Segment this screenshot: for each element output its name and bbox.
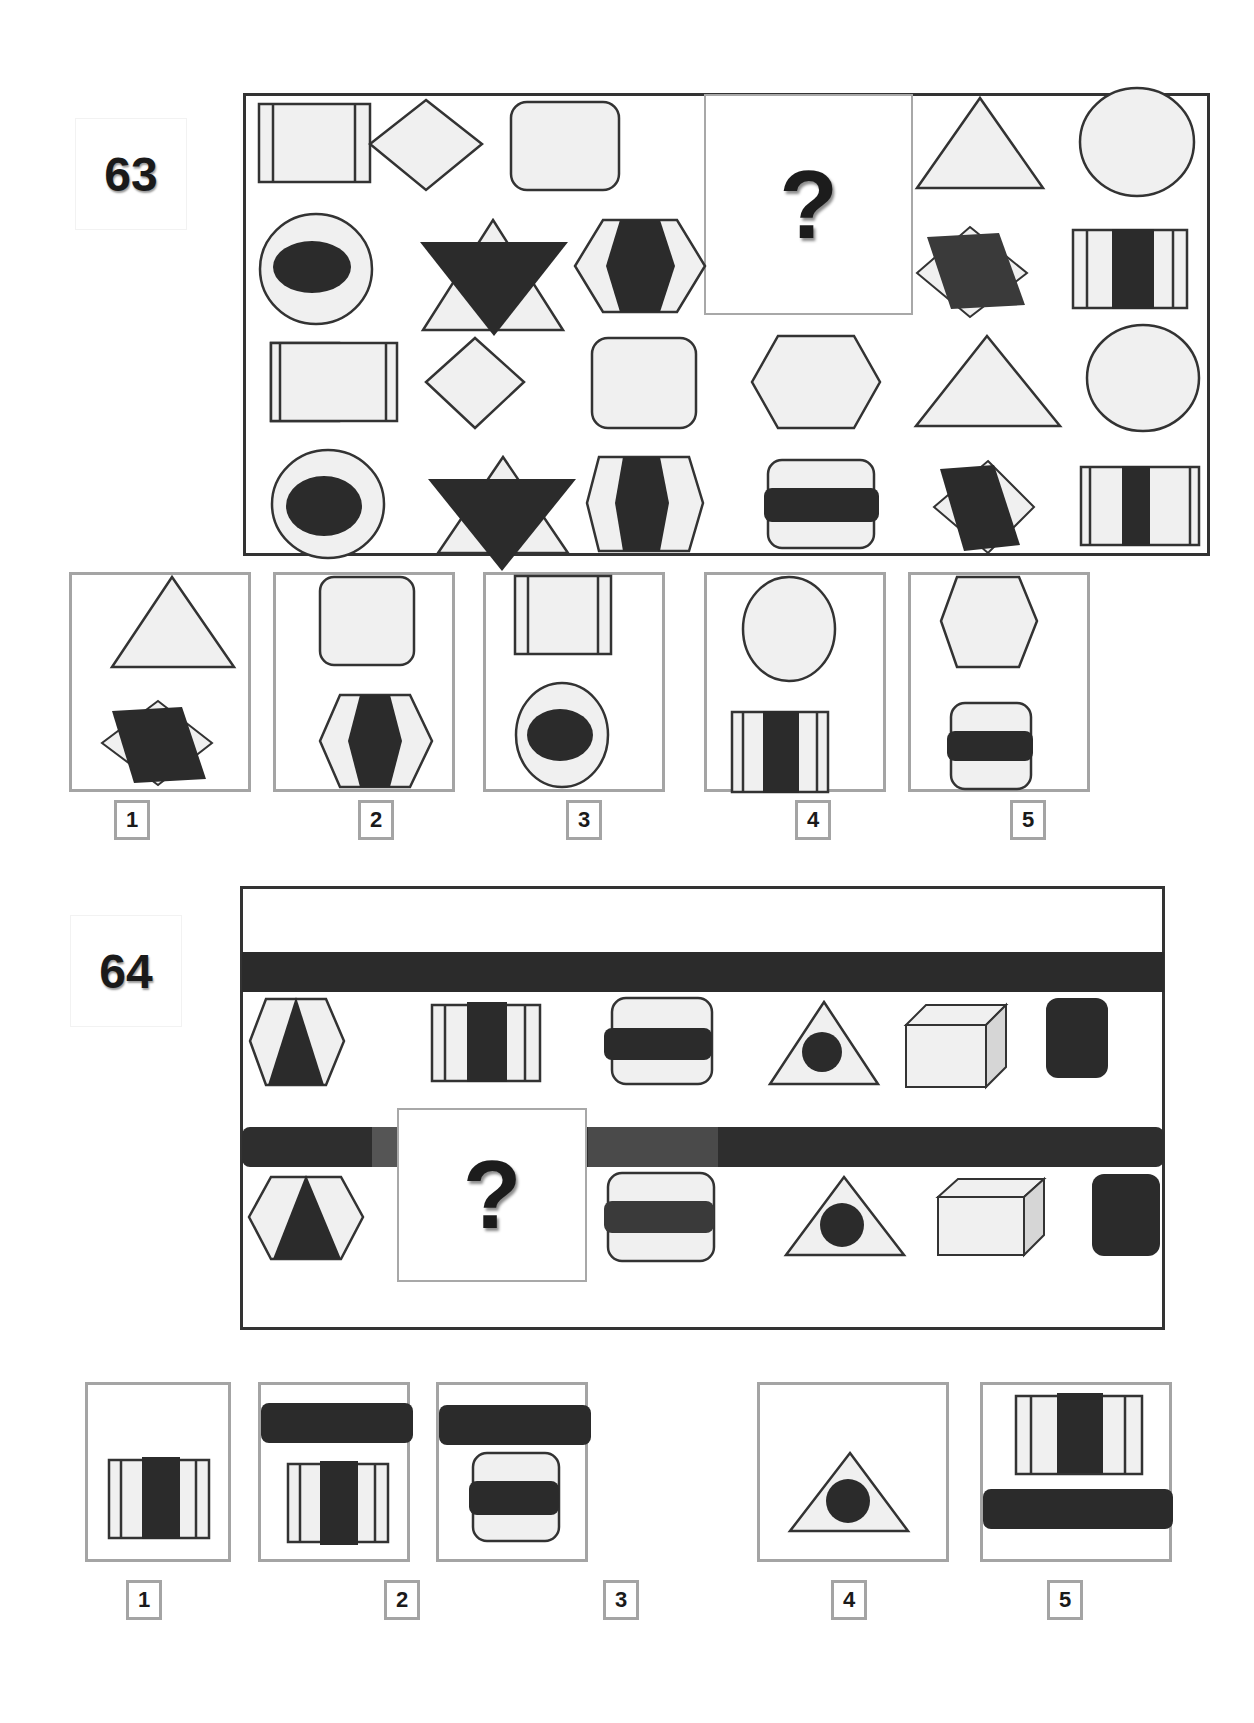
hexagon-with-dark-triangle-icon [248,997,348,1087]
dark-horizontal-bar [983,1489,1173,1529]
star-of-david-dark-inverted-icon [420,218,570,338]
puzzle-63-option-4-label[interactable]: 4 [795,800,831,840]
puzzle-64-missing-cell: ? [397,1108,587,1282]
triangle-icon [915,96,1045,192]
puzzle-63-option-2[interactable] [273,572,455,792]
hexagon-with-dark-band-icon [318,693,436,789]
bar-faded-segment-right [588,1127,718,1167]
diamond-icon [368,98,484,194]
puzzle-63-option-1[interactable] [69,572,251,792]
dark-horizontal-bar [242,952,1164,992]
barcode-rectangle-icon [1015,1393,1145,1475]
puzzle-64-option-3[interactable] [436,1382,588,1562]
triangle-icon [106,575,238,671]
star-of-david-dark-inverted-icon [428,455,578,573]
puzzle-63-option-1-label[interactable]: 1 [114,800,150,840]
rounded-square-icon [590,336,698,430]
question-mark: ? [463,1147,522,1243]
barcode-rectangle-icon [1072,229,1190,311]
rounded-square-with-dark-bar-icon [604,996,720,1086]
rounded-square-with-dark-bar-icon [469,1451,563,1543]
diamond-with-dark-parallelogram-icon [915,225,1031,321]
dark-rounded-square-icon [1092,1174,1162,1258]
triangle-with-dark-circle-icon [784,1175,908,1257]
puzzle-63-option-4[interactable] [704,572,886,792]
hexagon-with-dark-band-icon [585,455,705,553]
puzzle-63-option-3-label[interactable]: 3 [566,800,602,840]
puzzle-64-option-1-label[interactable]: 1 [126,1580,162,1620]
hexagon-icon [939,575,1039,671]
puzzle-64-option-2[interactable] [258,1382,410,1562]
puzzle-64-option-4-label[interactable]: 4 [831,1580,867,1620]
puzzle-64-option-5-label[interactable]: 5 [1047,1580,1083,1620]
circle-icon [741,575,839,685]
puzzle-63-option-3[interactable] [483,572,665,792]
puzzle-63-missing-cell: ? [704,94,913,315]
circle-with-dark-oval-icon [514,681,612,789]
hexagon-with-dark-band-icon [573,218,707,314]
rounded-square-with-dark-bar-icon [604,1171,720,1265]
barcode-rectangle-icon [1080,466,1200,546]
puzzle-63-number: 63 [75,118,187,230]
circle-with-dark-oval-icon [258,211,374,327]
dark-horizontal-bar [439,1405,591,1445]
hexagon-with-dark-triangle-icon [247,1175,367,1263]
puzzle-64-option-2-label[interactable]: 2 [384,1580,420,1620]
dark-rounded-square-icon [1046,998,1110,1080]
circle-icon [1078,86,1196,198]
barcode-rectangle-icon [431,1004,541,1084]
rounded-square-with-dark-bar-icon [764,458,880,550]
rounded-square-with-dark-bar-icon [947,701,1035,793]
hexagon-icon [750,334,882,430]
diamond-with-dark-parallelogram-icon [100,699,216,789]
rounded-square-icon [509,100,621,192]
dark-horizontal-bar [261,1403,413,1443]
triangle-icon [914,334,1064,430]
puzzle-64-option-5[interactable] [980,1382,1172,1562]
circle-with-dark-oval-icon [270,448,386,560]
puzzle-63-option-5-label[interactable]: 5 [1010,800,1046,840]
striped-rectangle-icon-wide [270,342,398,422]
barcode-rectangle-icon [108,1457,210,1539]
barcode-rectangle-icon [731,711,829,795]
puzzle-64-option-3-label[interactable]: 3 [603,1580,639,1620]
puzzle-64-number: 64 [70,915,182,1027]
striped-rectangle-icon [258,103,371,185]
circle-icon [1084,324,1202,434]
diamond-icon [424,336,526,432]
puzzle-63-option-5[interactable] [908,572,1090,792]
3d-box-icon [904,1003,1008,1089]
triangle-with-dark-circle-icon [768,1000,880,1086]
puzzle-63-option-2-label[interactable]: 2 [358,800,394,840]
diamond-with-dark-parallelogram-icon [922,459,1038,557]
striped-rectangle-icon [514,575,612,655]
triangle-with-dark-circle-icon [788,1451,912,1535]
rounded-square-icon [318,575,416,667]
3d-box-icon [936,1177,1046,1257]
question-mark: ? [779,157,838,253]
puzzle-64-option-1[interactable] [85,1382,231,1562]
barcode-rectangle-icon [287,1461,389,1545]
puzzle-64-option-4[interactable] [757,1382,949,1562]
